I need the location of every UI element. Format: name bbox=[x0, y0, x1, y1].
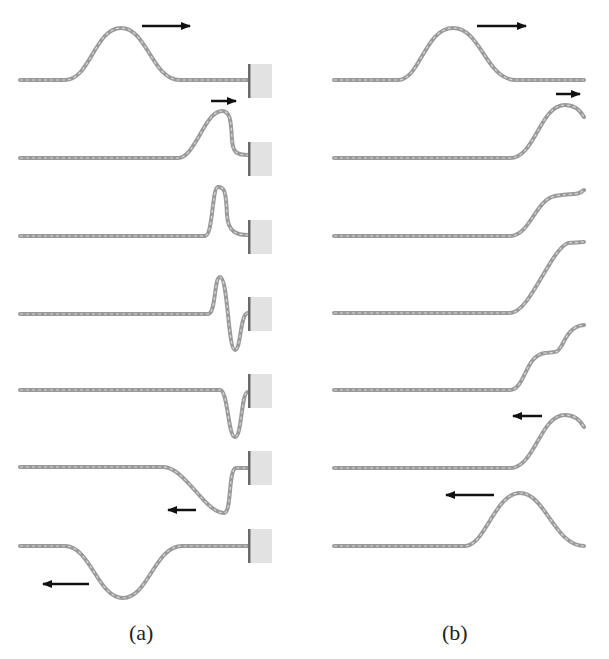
panel-b-frame-6 bbox=[334, 415, 584, 468]
panel-a-frame-1 bbox=[20, 26, 272, 98]
panel-b bbox=[334, 26, 584, 546]
fixed-wall bbox=[248, 374, 272, 408]
panel-a-frame-5 bbox=[20, 374, 272, 437]
panel-a bbox=[20, 26, 272, 598]
panel-a-frame-7 bbox=[20, 529, 272, 598]
panel-a-frame-3 bbox=[20, 187, 272, 254]
panel-b-frame-4 bbox=[334, 242, 584, 313]
panel-a-frame-2 bbox=[20, 101, 272, 176]
fixed-wall bbox=[248, 529, 272, 563]
panel-b-frame-2 bbox=[334, 94, 584, 158]
wave-reflection-diagram: .str { fill: none; stroke: #9a9a9a; stro… bbox=[0, 0, 609, 659]
fixed-wall bbox=[248, 451, 272, 485]
panel-b-frame-7 bbox=[334, 493, 584, 546]
panel-a-frame-6 bbox=[20, 451, 272, 513]
fixed-wall bbox=[248, 220, 272, 254]
fixed-wall bbox=[248, 64, 272, 98]
panel-b-frame-1 bbox=[334, 26, 584, 80]
panel-b-frame-3 bbox=[334, 190, 584, 236]
panel-b-caption: (b) bbox=[442, 620, 468, 646]
panel-a-frame-4 bbox=[20, 277, 272, 350]
fixed-wall bbox=[248, 297, 272, 331]
panel-b-frame-5 bbox=[334, 325, 584, 390]
panel-a-caption: (a) bbox=[129, 620, 153, 646]
fixed-wall bbox=[248, 142, 272, 176]
